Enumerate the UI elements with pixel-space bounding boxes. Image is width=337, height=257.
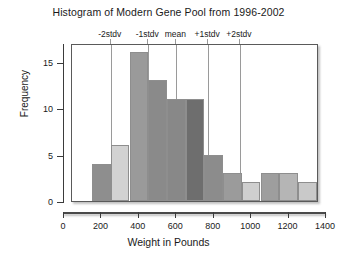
x-tick-label: 200 — [80, 221, 120, 231]
chart-title: Histogram of Modern Gene Pool from 1996-… — [0, 6, 337, 18]
x-tick-mark — [138, 212, 139, 218]
x-tick-mark — [213, 212, 214, 218]
plot-frame — [71, 44, 318, 202]
histogram-bar — [279, 173, 298, 201]
stdv-label: mean — [165, 29, 186, 39]
x-tick-mark — [288, 212, 289, 218]
histogram-bar — [223, 173, 242, 201]
histogram-bar — [92, 164, 111, 201]
x-tick-mark — [63, 212, 64, 218]
y-tick-mark — [57, 63, 64, 64]
x-tick-mark — [325, 212, 326, 218]
y-tick-label: 0 — [33, 197, 53, 207]
y-tick-label: 10 — [33, 104, 53, 114]
x-axis-title: Weight in Pounds — [0, 236, 337, 248]
y-tick-mark — [57, 156, 64, 157]
y-tick-mark — [57, 202, 64, 203]
x-tick-mark — [175, 212, 176, 218]
histogram-figure: Histogram of Modern Gene Pool from 1996-… — [0, 0, 337, 257]
histogram-bar — [242, 182, 261, 201]
histogram-bar — [130, 52, 149, 201]
y-tick-label: 5 — [33, 151, 53, 161]
x-tick-mark — [100, 212, 101, 218]
y-axis-line — [63, 44, 64, 203]
x-axis-line — [63, 212, 325, 214]
stdv-label: +2stdv — [226, 29, 251, 39]
histogram-bar — [167, 99, 186, 201]
y-tick-mark — [57, 109, 64, 110]
histogram-bar — [204, 155, 223, 201]
x-tick-label: 1400 — [305, 221, 337, 231]
x-tick-label: 600 — [155, 221, 195, 231]
histogram-bar — [261, 173, 280, 201]
y-tick-label: 15 — [33, 58, 53, 68]
histogram-bar — [298, 182, 317, 201]
x-tick-label: 1000 — [230, 221, 270, 231]
y-axis-title: Frequency — [19, 54, 30, 134]
stdv-label: -1stdv — [136, 29, 159, 39]
stdv-label: +1stdv — [194, 29, 219, 39]
histogram-bar — [148, 80, 167, 201]
histogram-bar — [186, 99, 205, 201]
x-tick-label: 1200 — [268, 221, 308, 231]
histogram-bar — [111, 145, 130, 201]
stdv-label: -2stdv — [98, 29, 121, 39]
x-tick-label: 0 — [43, 221, 83, 231]
plot-area — [72, 45, 317, 201]
x-tick-label: 800 — [193, 221, 233, 231]
x-tick-mark — [250, 212, 251, 218]
x-tick-label: 400 — [118, 221, 158, 231]
